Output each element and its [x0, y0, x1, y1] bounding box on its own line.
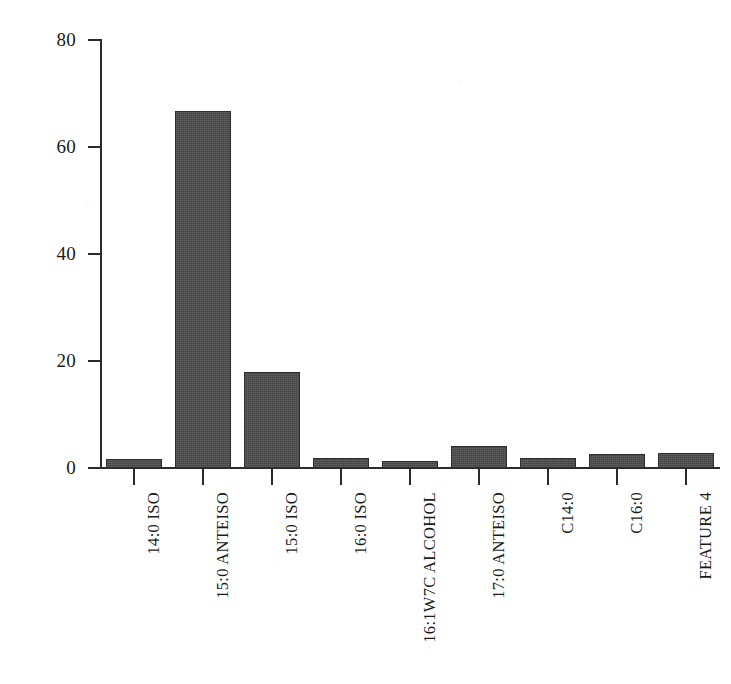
bar — [106, 459, 162, 468]
x-label-wrap: 15:0 ANTEISO — [210, 492, 227, 599]
x-tick-mark — [340, 469, 342, 485]
bar — [313, 458, 369, 468]
bar-group — [175, 40, 231, 468]
bar-group — [589, 40, 645, 468]
bar-group — [313, 40, 369, 468]
y-tick-label: 80 — [24, 30, 76, 49]
x-tick-label: C14:0 — [560, 492, 577, 534]
y-tick-mark — [88, 146, 100, 148]
plot-area — [100, 40, 720, 468]
y-tick-mark — [88, 360, 100, 362]
x-tick-label: 15:0 ANTEISO — [215, 492, 232, 599]
x-tick-mark — [478, 469, 480, 485]
bar — [658, 453, 714, 468]
bar-group — [451, 40, 507, 468]
y-tick-mark — [88, 467, 100, 469]
x-label-wrap: 15:0 ISO — [279, 492, 296, 554]
x-tick-label: 17:0 ANTEISO — [491, 492, 508, 599]
x-tick-mark — [271, 469, 273, 485]
bar-group — [244, 40, 300, 468]
x-tick-mark — [616, 469, 618, 485]
x-tick-mark — [202, 469, 204, 485]
x-tick-label: 14:0 ISO — [146, 492, 163, 554]
bar — [175, 111, 231, 468]
x-tick-label: FEATURE 4 — [698, 492, 715, 580]
x-tick-label: 16:0 ISO — [353, 492, 370, 554]
x-tick-label: 16:1W7C ALCOHOL — [422, 492, 439, 643]
fatty-acid-bar-chart: 020406080 脂肪酸含量/% 14:0 ISO15:0 ANTEISO15… — [0, 0, 731, 684]
x-tick-mark — [547, 469, 549, 485]
x-tick-label: C16:0 — [629, 492, 646, 534]
y-tick-mark — [88, 39, 100, 41]
bar — [382, 461, 438, 468]
bar — [451, 446, 507, 468]
y-tick-label: 60 — [24, 137, 76, 156]
x-label-wrap: C14:0 — [555, 492, 572, 534]
bar — [589, 454, 645, 468]
x-tick-mark — [685, 469, 687, 485]
x-label-wrap: 17:0 ANTEISO — [486, 492, 503, 599]
x-label-wrap: 16:0 ISO — [348, 492, 365, 554]
y-tick-mark — [88, 253, 100, 255]
x-label-wrap: 16:1W7C ALCOHOL — [417, 492, 434, 643]
bar-group — [520, 40, 576, 468]
y-tick-label: 0 — [24, 458, 76, 477]
y-tick-label: 20 — [24, 351, 76, 370]
bar — [244, 372, 300, 468]
bar-group — [658, 40, 714, 468]
x-label-wrap: C16:0 — [624, 492, 641, 534]
bar — [520, 458, 576, 468]
x-tick-label: 15:0 ISO — [284, 492, 301, 554]
bar-group — [382, 40, 438, 468]
x-tick-mark — [409, 469, 411, 485]
x-label-wrap: FEATURE 4 — [693, 492, 710, 580]
x-tick-mark — [133, 469, 135, 485]
bar-group — [106, 40, 162, 468]
y-tick-label: 40 — [24, 244, 76, 263]
x-label-wrap: 14:0 ISO — [141, 492, 158, 554]
